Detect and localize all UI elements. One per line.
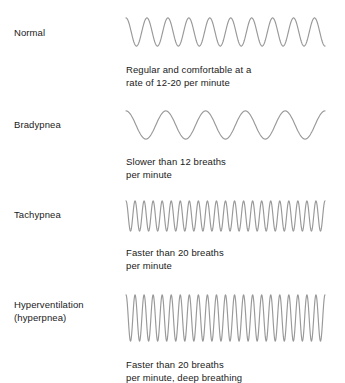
waveform-hyperventilation: [126, 294, 325, 342]
pattern-description-tachypnea: Faster than 20 breaths per minute: [126, 247, 224, 272]
waveform-svg-normal: [126, 17, 325, 47]
breathing-patterns-diagram: Normal Regular and comfortable at a rate…: [0, 0, 345, 383]
waveform-path-bradypnea: [126, 111, 325, 139]
waveform-svg-tachypnea: [126, 200, 325, 232]
pattern-label-bradypnea: Bradypnea: [14, 119, 61, 132]
waveform-normal: [126, 17, 325, 47]
waveform-path-tachypnea: [126, 201, 325, 231]
pattern-label-normal: Normal: [14, 27, 45, 40]
pattern-description-normal: Regular and comfortable at a rate of 12-…: [126, 64, 251, 89]
waveform-bradypnea: [126, 110, 325, 140]
waveform-svg-bradypnea: [126, 110, 325, 140]
pattern-description-bradypnea: Slower than 12 breaths per minute: [126, 156, 226, 181]
pattern-description-hyperventilation: Faster than 20 breaths per minute, deep …: [126, 359, 242, 383]
waveform-path-normal: [126, 18, 325, 46]
waveform-svg-hyperventilation: [126, 294, 325, 342]
waveform-tachypnea: [126, 200, 325, 232]
pattern-label-tachypnea: Tachypnea: [14, 209, 61, 222]
waveform-path-hyperventilation: [126, 295, 325, 341]
pattern-label-hyperventilation: Hyperventilation (hyperpnea): [14, 299, 84, 324]
